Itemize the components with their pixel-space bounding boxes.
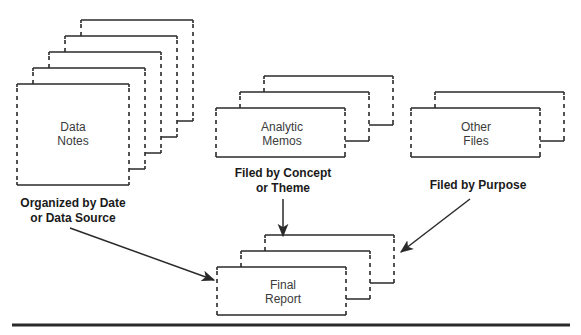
- analytic-memos-label-line-2: Memos: [262, 134, 301, 148]
- arrow-other-to-report-icon: [401, 199, 470, 252]
- stack-other-files: OtherFiles: [411, 92, 564, 157]
- arrow-data-notes-to-report-icon: [70, 228, 214, 280]
- qualitative-data-filing-diagram: DataNotesAnalyticMemosOtherFilesFinalRep…: [0, 0, 581, 335]
- analytic-memos-label-line-1: Analytic: [261, 120, 303, 134]
- data-notes-label-line-2: Notes: [57, 134, 88, 148]
- final-report-label-line-1: Final: [270, 278, 296, 292]
- caption-filed-by-concept-line-2: or Theme: [256, 181, 310, 195]
- caption-filed-by-concept-line-1: Filed by Concept: [235, 166, 332, 180]
- data-notes-label-line-1: Data: [60, 120, 86, 134]
- caption-filed-by-purpose-line-1: Filed by Purpose: [430, 178, 527, 192]
- final-report-label-line-2: Report: [265, 292, 302, 306]
- stack-final-report: FinalReport: [217, 235, 394, 315]
- stack-data-notes: DataNotes: [17, 20, 193, 185]
- other-files-label-line-2: Files: [463, 134, 488, 148]
- caption-organized-by-date-line-2: or Data Source: [30, 211, 116, 225]
- stack-analytic-memos: AnalyticMemos: [216, 76, 393, 157]
- other-files-label-line-1: Other: [461, 120, 491, 134]
- caption-organized-by-date-line-1: Organized by Date: [20, 196, 126, 210]
